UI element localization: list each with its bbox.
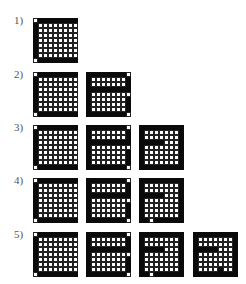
grid-pattern-b <box>86 232 131 277</box>
grid-pattern-a <box>33 125 78 170</box>
grid-pattern-a <box>33 72 78 117</box>
grid-pattern-a <box>33 178 78 223</box>
grid-pattern-b <box>86 125 131 170</box>
grid-pattern-c <box>139 125 184 170</box>
black-cell <box>73 218 78 223</box>
grid-pattern-e <box>193 232 238 277</box>
row-label: 3) <box>14 121 23 133</box>
black-cell <box>179 218 184 223</box>
black-cell <box>73 165 78 170</box>
grid-pattern-b <box>86 72 131 117</box>
row-label: 4) <box>14 174 23 186</box>
row-label: 2) <box>14 68 23 80</box>
grid-pattern-a <box>33 18 78 63</box>
white-cell <box>126 165 131 170</box>
black-cell <box>179 272 184 277</box>
grid-pattern-b <box>86 178 131 223</box>
white-cell <box>126 112 131 117</box>
row-label: 1) <box>14 14 23 26</box>
white-cell <box>126 218 131 223</box>
black-cell <box>233 272 238 277</box>
grid-pattern-d <box>139 178 184 223</box>
black-cell <box>73 58 78 63</box>
grid-pattern-a <box>33 232 78 277</box>
black-cell <box>179 165 184 170</box>
row-label: 5) <box>14 228 23 240</box>
white-cell <box>126 272 131 277</box>
black-cell <box>73 112 78 117</box>
grid-pattern-d <box>139 232 184 277</box>
black-cell <box>73 272 78 277</box>
